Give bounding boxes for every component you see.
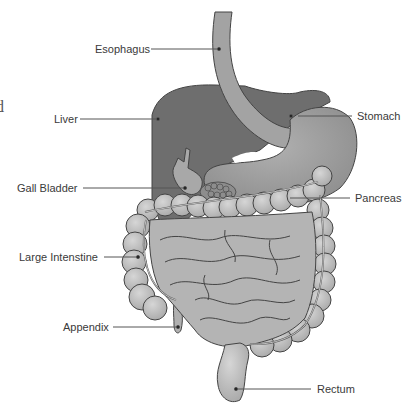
label-esophagus: Esophagus bbox=[95, 43, 150, 55]
anatomy-illustration bbox=[0, 0, 414, 420]
rectum-shape bbox=[217, 343, 248, 402]
digestive-system-diagram: d Esophagus Liver Stomach Gall Bladder P… bbox=[0, 0, 414, 420]
label-liver: Liver bbox=[54, 113, 78, 125]
label-large-intestine: Large Intenstine bbox=[19, 251, 98, 263]
label-gall-bladder: Gall Bladder bbox=[17, 182, 78, 194]
label-pancreas: Pancreas bbox=[355, 192, 401, 204]
clipped-text-fragment: d bbox=[0, 98, 4, 116]
label-appendix: Appendix bbox=[63, 321, 109, 333]
label-stomach: Stomach bbox=[357, 110, 400, 122]
label-rectum: Rectum bbox=[317, 383, 355, 395]
